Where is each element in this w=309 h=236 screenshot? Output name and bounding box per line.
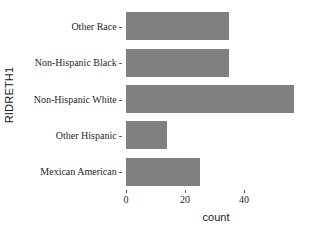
y-tick-dash: - bbox=[119, 94, 122, 105]
bar bbox=[126, 85, 294, 113]
bar-fill bbox=[126, 121, 167, 149]
y-tick-label: Other Race- bbox=[71, 12, 122, 40]
y-tick-dash: - bbox=[119, 57, 122, 68]
bar-chart: RIDRETH1 Other Race-Non-Hispanic Black-N… bbox=[0, 0, 309, 236]
y-tick-label: Other Hispanic- bbox=[56, 121, 122, 149]
x-tick-mark bbox=[185, 190, 186, 193]
x-tick-mark bbox=[126, 190, 127, 193]
x-tick-mark bbox=[244, 190, 245, 193]
bar-fill bbox=[126, 158, 200, 186]
y-tick-label-group: Other Race-Non-Hispanic Black-Non-Hispan… bbox=[0, 8, 122, 190]
y-tick-label-text: Other Hispanic bbox=[56, 130, 117, 141]
plot-area bbox=[126, 8, 306, 190]
y-tick-label-text: Mexican American bbox=[40, 166, 116, 177]
y-tick-label-text: Other Race bbox=[71, 21, 116, 32]
y-tick-dash: - bbox=[119, 21, 122, 32]
bar bbox=[126, 158, 200, 186]
bar-fill bbox=[126, 12, 229, 40]
bar-fill bbox=[126, 49, 229, 77]
x-tick-label: 0 bbox=[124, 194, 129, 205]
bar bbox=[126, 121, 167, 149]
y-tick-dash: - bbox=[119, 130, 122, 141]
x-tick-label: 20 bbox=[180, 194, 190, 205]
x-tick-label: 40 bbox=[239, 194, 249, 205]
y-tick-label: Non-Hispanic White- bbox=[34, 85, 122, 113]
x-axis: 02040 bbox=[126, 190, 306, 212]
y-tick-label-text: Non-Hispanic Black bbox=[35, 57, 117, 68]
bar bbox=[126, 12, 229, 40]
x-axis-title: count bbox=[126, 211, 306, 223]
bar bbox=[126, 49, 229, 77]
y-tick-label-text: Non-Hispanic White bbox=[34, 94, 117, 105]
y-tick-label: Mexican American- bbox=[40, 158, 122, 186]
bar-fill bbox=[126, 85, 294, 113]
y-tick-label: Non-Hispanic Black- bbox=[35, 49, 122, 77]
y-tick-dash: - bbox=[119, 166, 122, 177]
